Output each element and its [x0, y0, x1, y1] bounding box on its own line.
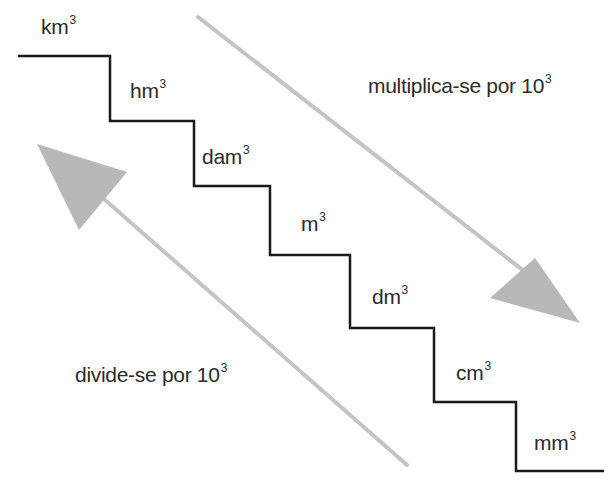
unit-label-dm3: dm3 — [372, 286, 408, 307]
unit-label-mm3: mm3 — [534, 432, 576, 453]
divide-caption: divide-se por 103 — [75, 364, 227, 385]
unit-label-cm3: cm3 — [456, 362, 491, 383]
multiply-caption: multiplica-se por 103 — [368, 75, 551, 96]
unit-label-hm3: hm3 — [130, 80, 166, 101]
multiply-arrow-icon — [198, 17, 580, 323]
unit-label-km3: km3 — [41, 16, 76, 37]
unit-label-m3: m3 — [301, 213, 326, 234]
divide-arrow-icon — [37, 144, 407, 465]
unit-label-dam3: dam3 — [202, 146, 249, 167]
